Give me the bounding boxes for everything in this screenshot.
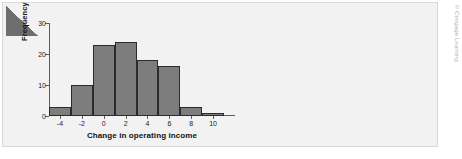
x-tick-mark [169, 116, 170, 119]
x-tick-mark [82, 116, 83, 119]
x-tick-mark [191, 116, 192, 119]
y-axis-title: Frequency [20, 2, 29, 41]
x-tick-mark [104, 116, 105, 119]
x-tick-label: 2 [124, 120, 128, 127]
x-tick-label: 8 [189, 120, 193, 127]
figure-panel: Frequency 0102030 -4-20246810 Change in … [2, 2, 438, 147]
figure-root: Frequency 0102030 -4-20246810 Change in … [0, 0, 462, 159]
x-tick-label: -2 [79, 120, 85, 127]
x-axis-title: Change in operating income [49, 131, 235, 140]
x-tick-label: -4 [57, 120, 63, 127]
histogram-bar [93, 45, 115, 116]
histogram-bar [49, 107, 71, 116]
plot-area: 0102030 -4-20246810 [49, 23, 221, 116]
y-tick-label: 30 [38, 20, 46, 27]
x-tick-label: 10 [209, 120, 217, 127]
histogram-bar [158, 66, 180, 116]
histogram-bar [71, 85, 93, 116]
x-tick-mark [60, 116, 61, 119]
x-tick-label: 6 [167, 120, 171, 127]
copyright-credit: © Cengage Learning [454, 5, 460, 62]
x-tick-mark [213, 116, 214, 119]
x-tick-mark [147, 116, 148, 119]
histogram-bar [137, 60, 159, 116]
y-tick-label: 20 [38, 51, 46, 58]
x-tick-mark [126, 116, 127, 119]
x-tick-label: 0 [102, 120, 106, 127]
y-axis-line [49, 23, 50, 116]
histogram-bar [180, 107, 202, 116]
y-tick-label: 0 [42, 113, 46, 120]
y-tick-label: 10 [38, 82, 46, 89]
x-tick-label: 4 [146, 120, 150, 127]
histogram-bar [115, 42, 137, 116]
